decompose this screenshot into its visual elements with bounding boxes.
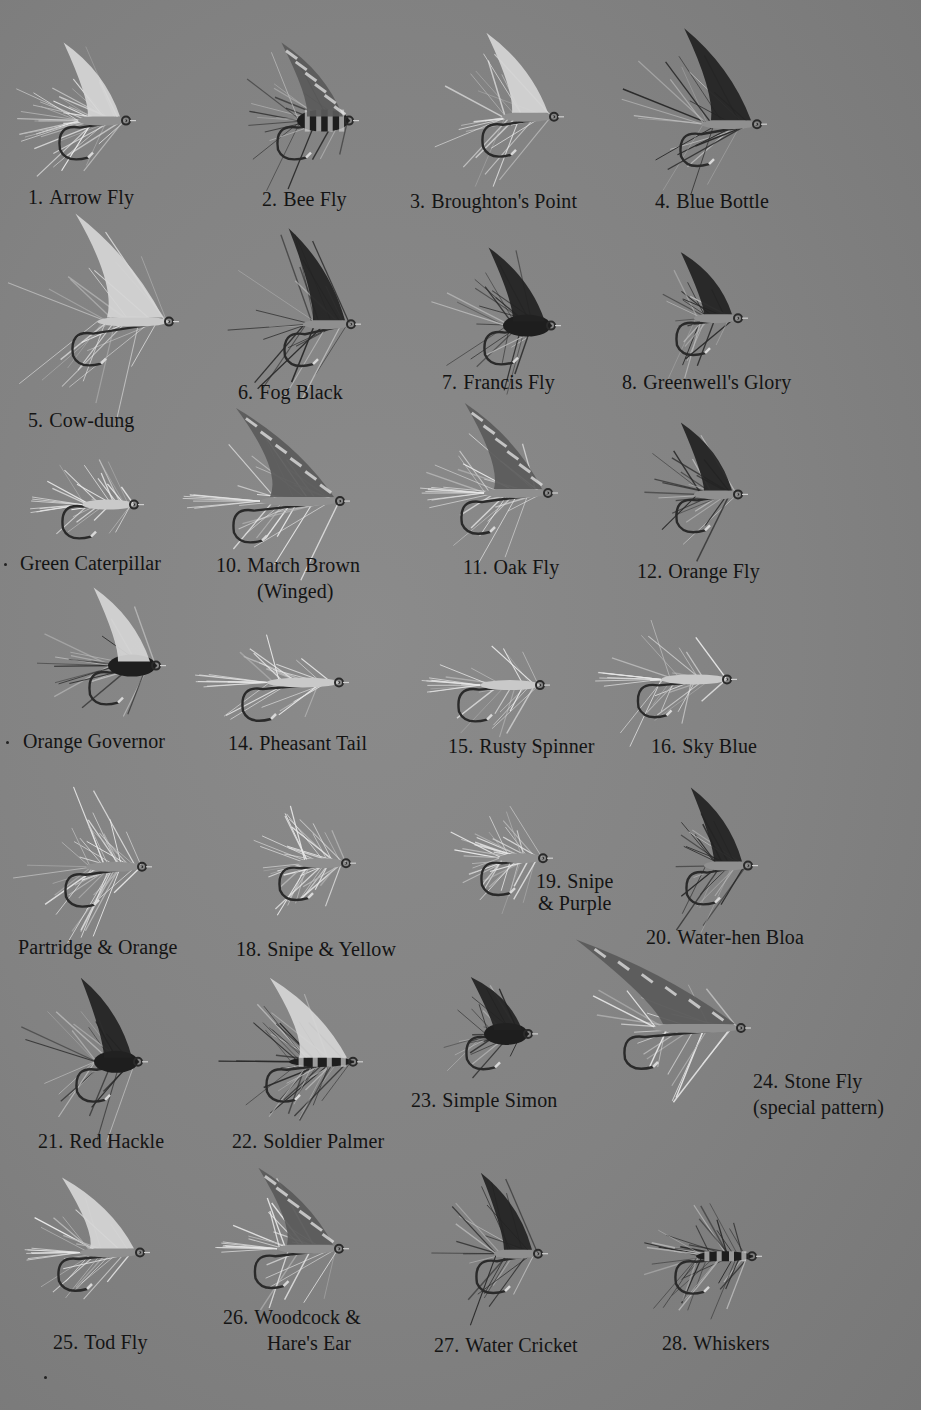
fly-mottled-wing-icon: [180, 405, 380, 560]
fly-illustration: [595, 605, 760, 725]
fly-pale-wing-dark-body-icon: [60, 585, 180, 715]
fly-number: 10.: [216, 554, 241, 576]
fly-dark-hackle-icon: [645, 25, 785, 185]
fly-number: 25.: [53, 1331, 78, 1353]
fly-name: Water Cricket: [465, 1334, 577, 1356]
fly-illustration: [640, 1185, 780, 1300]
fly-caption: 24.Stone Fly: [753, 1069, 862, 1094]
fly-number: 11.: [463, 556, 488, 578]
fly-caption: 6.Fog Black: [238, 380, 343, 405]
fly-caption: 8.Greenwell's Glory: [622, 370, 791, 395]
fly-caption: 1.Arrow Fly: [28, 185, 134, 210]
fly-number: 2.: [262, 188, 277, 210]
fly-name: Partridge & Orange: [18, 936, 178, 958]
fly-name: March Brown: [247, 554, 360, 576]
fly-caption-line2: Hare's Ear: [267, 1331, 351, 1356]
fly-dark-wing-icon: [255, 225, 375, 385]
fly-name: Blue Bottle: [676, 190, 769, 212]
fly-name: Fog Black: [259, 381, 343, 403]
fly-caterpillar-icon: [30, 455, 160, 535]
fly-caption: Green Caterpillar: [20, 551, 161, 576]
fly-caption: 14.Pheasant Tail: [228, 731, 367, 756]
fly-illustration: [60, 585, 180, 715]
fly-number: 23.: [411, 1089, 436, 1111]
fly-tail-hackle-icon: [195, 605, 375, 730]
fly-palmer-icon: [225, 975, 385, 1115]
fly-name: Orange Fly: [668, 560, 760, 582]
print-speck: [6, 741, 9, 744]
fly-illustration: [250, 795, 370, 905]
fly-illustration: [455, 245, 575, 375]
fly-dark-body-wing-icon: [455, 245, 575, 375]
fly-mottled-wing-icon: [215, 1165, 370, 1300]
fly-number: 3.: [410, 190, 425, 212]
fly-caption: 11.Oak Fly: [463, 555, 559, 580]
fly-illustration: [30, 455, 160, 535]
fly-dark-body-hackle-icon: [50, 975, 160, 1115]
fly-illustration: [20, 1175, 170, 1300]
fly-illustration: [450, 1170, 560, 1305]
fly-number: 6.: [238, 381, 253, 403]
fly-caption-line2: & Purple: [538, 891, 612, 916]
fly-name: Snipe & Yellow: [267, 938, 396, 960]
fly-number: 14.: [228, 732, 253, 754]
fly-name: Snipe: [567, 870, 613, 892]
fly-illustration: [30, 780, 170, 920]
fly-illustration: [420, 620, 570, 725]
fly-spiky-pale-icon: [250, 795, 370, 905]
fly-caption: 26.Woodcock &: [223, 1305, 361, 1330]
fly-name: Arrow Fly: [49, 186, 134, 208]
fly-name: Soldier Palmer: [263, 1130, 384, 1152]
fly-number: 19.: [536, 870, 561, 892]
fly-caption: 3.Broughton's Point: [410, 189, 577, 214]
fly-caption: 23.Simple Simon: [411, 1088, 557, 1113]
fly-barred-wing-dark-body-icon: [245, 40, 375, 170]
fly-number: 4.: [655, 190, 670, 212]
fly-winged-hook-icon: [450, 30, 580, 170]
fly-illustration: [30, 40, 150, 170]
fly-caption: 16.Sky Blue: [651, 734, 757, 759]
fly-illustration: [650, 250, 760, 360]
fly-number: 21.: [38, 1130, 63, 1152]
fly-caption: 7.Francis Fly: [442, 370, 555, 395]
fly-name: Cow-dung: [49, 409, 134, 431]
fly-name: Bee Fly: [283, 188, 346, 210]
fly-dark-hackle-icon: [660, 785, 770, 915]
fly-name: Broughton's Point: [431, 190, 577, 212]
fly-illustration: [180, 405, 380, 560]
fly-name: Rusty Spinner: [479, 735, 594, 757]
fly-illustration: [195, 605, 375, 730]
fly-number: 27.: [434, 1334, 459, 1356]
fly-name: Stone Fly: [784, 1070, 862, 1092]
fly-number: 26.: [223, 1306, 248, 1328]
fly-name: Sky Blue: [682, 735, 757, 757]
fly-caption: 18.Snipe & Yellow: [236, 937, 396, 962]
fly-caption: 25.Tod Fly: [53, 1330, 148, 1355]
fly-illustration: [660, 785, 770, 915]
fly-illustration: [50, 975, 160, 1115]
fly-number: 24.: [753, 1070, 778, 1092]
fly-illustration: [565, 935, 785, 1085]
fly-name: Orange Governor: [23, 730, 165, 752]
fly-number: 7.: [442, 371, 457, 393]
fly-dark-hackle-icon: [450, 1170, 560, 1305]
fly-spiky-pale-icon: [30, 40, 150, 170]
fly-name: Oak Fly: [494, 556, 560, 578]
fly-number: 28.: [662, 1332, 687, 1354]
fly-spiky-pale-icon: [30, 780, 170, 920]
fly-name: Pheasant Tail: [259, 732, 367, 754]
fly-illustration: [645, 25, 785, 185]
fly-illustration: [650, 420, 760, 540]
fly-illustration: [440, 975, 550, 1070]
fly-mottled-wing-icon: [420, 400, 580, 550]
fly-number: 5.: [28, 409, 43, 431]
fly-number: 1.: [28, 186, 43, 208]
fly-caption: 22.Soldier Palmer: [232, 1129, 384, 1154]
fly-caption: 21.Red Hackle: [38, 1129, 164, 1154]
fly-caption: 4.Blue Bottle: [655, 189, 769, 214]
fly-illustration: [25, 210, 205, 390]
fly-caption: Partridge & Orange: [18, 935, 178, 960]
fly-number: 12.: [637, 560, 662, 582]
fly-palmer-icon: [640, 1185, 780, 1300]
print-speck: [4, 563, 7, 566]
